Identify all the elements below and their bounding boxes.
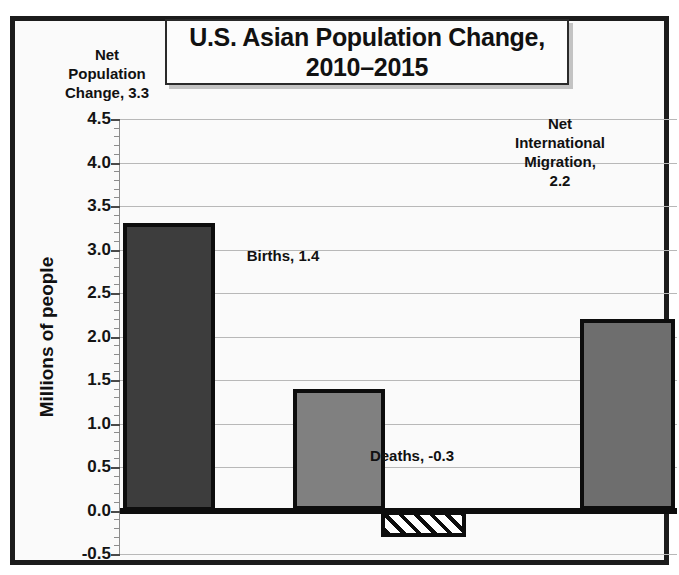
- y-tick-label: 0.5: [51, 457, 111, 477]
- y-tick-minor: [114, 406, 120, 407]
- y-tick-major: [111, 380, 120, 382]
- y-tick-minor: [114, 484, 120, 485]
- y-tick-minor: [114, 345, 120, 346]
- y-tick-minor: [114, 145, 120, 146]
- y-tick-minor: [114, 276, 120, 277]
- y-tick-minor: [114, 215, 120, 216]
- y-tick-minor: [114, 397, 120, 398]
- y-tick-minor: [114, 493, 120, 494]
- label-line: Deaths, -0.3: [332, 446, 492, 465]
- chart-title-line-1: U.S. Asian Population Change,: [189, 22, 545, 52]
- y-tick-minor: [114, 441, 120, 442]
- y-tick-minor: [114, 310, 120, 311]
- label-deaths: Deaths, -0.3: [332, 446, 492, 465]
- y-tick-major: [111, 424, 120, 426]
- y-tick-minor: [114, 258, 120, 259]
- chart-frame: 4.5 4.0 3.5 3.0 2.5 2.0 1.5 1.0 0.5 0.0 …: [10, 16, 669, 565]
- y-tick-minor: [114, 389, 120, 390]
- chart-title-box: U.S. Asian Population Change, 2010–2015: [165, 19, 569, 85]
- y-tick-minor: [114, 136, 120, 137]
- y-tick-minor: [114, 171, 120, 172]
- y-tick-label: 4.5: [51, 109, 111, 129]
- bar-deaths[interactable]: [381, 511, 466, 537]
- y-tick-minor: [114, 180, 120, 181]
- y-tick-label: 3.5: [51, 196, 111, 216]
- y-tick-minor: [114, 154, 120, 155]
- y-tick-label: 2.5: [51, 283, 111, 303]
- y-tick-minor: [114, 354, 120, 355]
- y-tick-minor: [114, 189, 120, 190]
- label-line: International: [485, 133, 635, 152]
- label-line: Population: [37, 64, 177, 83]
- y-tick-minor: [114, 284, 120, 285]
- y-tick-minor: [114, 267, 120, 268]
- y-tick-minor: [114, 415, 120, 416]
- y-tick-minor: [114, 128, 120, 129]
- y-axis-spine: [119, 119, 120, 554]
- y-tick-label: 4.0: [51, 153, 111, 173]
- y-tick-major: [111, 163, 120, 165]
- label-line: Net: [485, 114, 635, 133]
- y-tick-minor: [114, 432, 120, 433]
- gridline-minus-0.5: [120, 554, 677, 555]
- zero-axis-line: [120, 508, 677, 514]
- y-tick-minor: [114, 319, 120, 320]
- y-tick-minor: [114, 450, 120, 451]
- chart-title-line-2: 2010–2015: [306, 52, 428, 82]
- label-births: Births, 1.4: [223, 246, 343, 265]
- y-tick-minor: [114, 476, 120, 477]
- label-line: Migration,: [485, 152, 635, 171]
- y-tick-minor: [114, 302, 120, 303]
- label-net-international-migration: Net International Migration, 2.2: [485, 114, 635, 190]
- y-tick-minor: [114, 502, 120, 503]
- label-line: 2.2: [485, 171, 635, 190]
- label-line: Change, 3.3: [37, 83, 177, 102]
- y-tick-major: [111, 206, 120, 208]
- y-tick-major: [111, 511, 120, 513]
- y-tick-label: 0.0: [51, 501, 111, 521]
- y-tick-minor: [114, 537, 120, 538]
- y-tick-minor: [114, 371, 120, 372]
- y-tick-minor: [114, 363, 120, 364]
- label-net-population-change: Net Population Change, 3.3: [37, 45, 177, 102]
- y-tick-major: [111, 554, 120, 556]
- y-tick-major: [111, 250, 120, 252]
- y-tick-label: -0.5: [51, 544, 111, 564]
- y-tick-major: [111, 293, 120, 295]
- chart-page: 4.5 4.0 3.5 3.0 2.5 2.0 1.5 1.0 0.5 0.0 …: [0, 0, 679, 575]
- label-line: Net: [37, 45, 177, 64]
- y-tick-minor: [114, 197, 120, 198]
- y-tick-minor: [114, 328, 120, 329]
- y-tick-label: 3.0: [51, 240, 111, 260]
- y-tick-minor: [114, 528, 120, 529]
- y-tick-minor: [114, 232, 120, 233]
- y-tick-minor: [114, 458, 120, 459]
- bar-net-population-change[interactable]: [123, 223, 215, 511]
- bar-net-international-migration[interactable]: [580, 319, 675, 510]
- y-tick-label: 2.0: [51, 327, 111, 347]
- y-tick-major: [111, 119, 120, 121]
- y-tick-minor: [114, 519, 120, 520]
- y-tick-label: 1.5: [51, 370, 111, 390]
- y-tick-minor: [114, 545, 120, 546]
- y-tick-minor: [114, 241, 120, 242]
- y-axis-title: Millions of people: [36, 247, 58, 427]
- y-tick-minor: [114, 223, 120, 224]
- label-line: Births, 1.4: [223, 246, 343, 265]
- y-tick-label: 1.0: [51, 414, 111, 434]
- gridline-3.5: [120, 206, 677, 207]
- y-tick-major: [111, 337, 120, 339]
- y-tick-major: [111, 467, 120, 469]
